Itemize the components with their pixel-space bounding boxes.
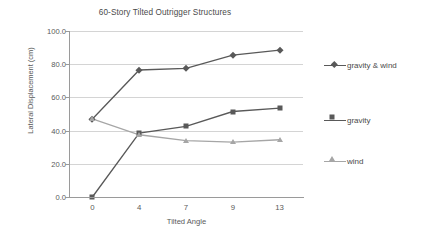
line-chart: 60-Story Tilted Outrigger Structures Lat… [0,0,434,238]
y-axis-tick-label: 0.0 [26,193,66,202]
legend-label: gravity [346,116,371,125]
series-line-1 [92,108,279,197]
legend-label: gravity & wind [346,61,397,70]
y-axis-tick-label: 40.0 [26,126,66,135]
legend-entry-wind[interactable]: wind [324,154,363,168]
y-axis-tick-label: 80.0 [26,60,66,69]
plot-area [69,31,303,197]
data-point-marker [89,116,95,121]
legend-swatch-icon [324,155,346,167]
legend-entry-gravity[interactable]: gravity [324,113,371,127]
y-axis-tick-mark [65,97,69,98]
data-point-marker [136,132,142,137]
x-axis-tick-label: 7 [171,203,201,212]
series-lines [69,31,303,197]
y-axis-tick-label: 20.0 [26,159,66,168]
x-axis-tick-label: 13 [265,203,295,212]
y-axis-tick-mark [65,64,69,65]
data-point-marker [230,139,236,144]
y-axis-tick-mark [65,31,69,32]
x-axis-label: Tilted Angle [69,217,304,226]
legend-swatch-icon [324,114,346,126]
y-axis-label: Lateral Displacement (cm) [26,16,35,166]
y-axis-tick-mark [65,131,69,132]
y-axis-line [69,31,70,198]
legend-label: wind [346,157,363,166]
x-axis-tick-label: 4 [124,203,154,212]
y-axis-tick-mark [65,164,69,165]
data-point-marker [184,124,189,129]
series-line-0 [92,50,279,119]
y-axis-tick-label: 60.0 [26,93,66,102]
y-axis-tick-mark [65,197,69,198]
x-axis-tick-label: 0 [77,203,107,212]
chart-title: 60-Story Tilted Outrigger Structures [0,8,330,17]
y-axis-tick-label: 100.0 [26,27,66,36]
x-axis-tick-label: 9 [218,203,248,212]
data-point-marker [277,137,283,142]
data-point-marker [230,109,235,114]
x-axis-line [69,197,304,198]
legend-swatch-icon [324,59,346,71]
legend-entry-gravity-wind[interactable]: gravity & wind [324,58,397,72]
data-point-marker [183,138,189,143]
data-point-marker [277,106,282,111]
